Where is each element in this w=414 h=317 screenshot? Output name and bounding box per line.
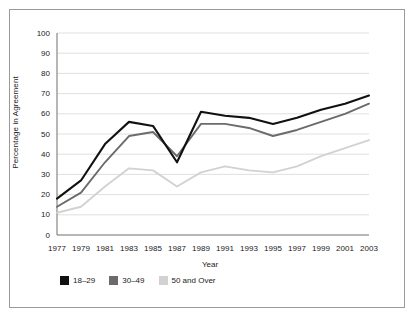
- legend-swatch-icon: [159, 276, 168, 285]
- x-tick-label: 2003: [354, 244, 384, 253]
- y-tick-label: 100: [28, 29, 50, 38]
- y-tick-label: 20: [28, 190, 50, 199]
- chart-figure: Percentage in Agreement Year 01020304050…: [0, 0, 414, 317]
- y-tick-label: 50: [28, 130, 50, 139]
- legend-swatch-icon: [109, 276, 118, 285]
- legend-swatch-icon: [60, 276, 69, 285]
- y-tick-label: 80: [28, 69, 50, 78]
- y-axis-title: Percentage in Agreement: [11, 68, 20, 178]
- y-tick-label: 90: [28, 49, 50, 58]
- x-axis-title: Year: [155, 260, 265, 269]
- plot-area: Percentage in Agreement Year 01020304050…: [0, 0, 414, 317]
- y-tick-label: 40: [28, 150, 50, 159]
- y-tick-label: 10: [28, 210, 50, 219]
- legend-item: 50 and Over: [159, 276, 216, 285]
- legend-label: 18–29: [73, 276, 95, 285]
- legend-item: 18–29: [60, 276, 95, 285]
- chart-legend: 18–2930–4950 and Over: [60, 276, 216, 285]
- y-tick-label: 70: [28, 89, 50, 98]
- legend-label: 30–49: [122, 276, 144, 285]
- legend-label: 50 and Over: [172, 276, 216, 285]
- series-line: [57, 140, 369, 213]
- legend-item: 30–49: [109, 276, 144, 285]
- y-tick-label: 30: [28, 170, 50, 179]
- series-line: [57, 96, 369, 199]
- y-tick-label: 0: [28, 231, 50, 240]
- line-chart-svg: [0, 0, 414, 317]
- y-tick-label: 60: [28, 109, 50, 118]
